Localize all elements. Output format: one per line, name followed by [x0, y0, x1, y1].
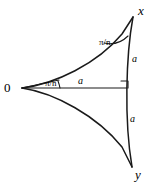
- figure-canvas: [0, 0, 159, 190]
- vertex-label-x: x: [138, 4, 144, 17]
- angle-label-origin: π/n: [45, 79, 57, 88]
- arc-x-to-y: [127, 17, 133, 167]
- side-label-lower-right: a: [130, 114, 135, 124]
- vertex-label-y: y: [135, 168, 141, 181]
- arc-origin-to-y: [22, 88, 132, 167]
- angle-arc-origin: [58, 81, 60, 88]
- angle-label-x: π/n: [99, 38, 111, 47]
- geometry-figure: x y 0 a a a π/n π/n: [0, 0, 159, 190]
- side-label-upper-right: a: [132, 54, 137, 64]
- side-label-midline: a: [78, 76, 83, 86]
- vertex-label-origin: 0: [4, 81, 11, 94]
